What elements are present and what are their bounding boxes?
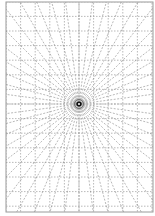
frame-border (6, 2, 153, 212)
perspective-grid (0, 0, 155, 216)
